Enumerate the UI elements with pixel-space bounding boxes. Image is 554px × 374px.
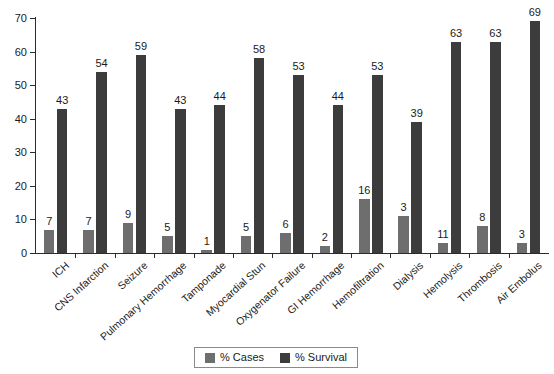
bar-value-label: 43 [170,95,191,106]
bar-cases [201,250,212,253]
y-tick-mark [30,186,35,187]
bar-survival [96,72,107,253]
bar-value-label: 53 [367,61,388,72]
category-label-text: Oxygenator Failure [233,259,307,328]
bar-cases [320,246,331,253]
bar-value-label: 59 [131,41,152,52]
bar-survival [490,42,501,254]
category-label-text: ICH [49,259,70,280]
bar-cases [83,230,94,254]
bar-cases [398,216,409,253]
bar-cases [359,199,370,253]
y-tick-mark [30,85,35,86]
x-tick-mark [430,253,431,258]
y-tick-mark [30,18,35,19]
legend-swatch-survival [280,353,290,363]
y-tick-label: 30 [0,147,27,158]
legend-item-cases: % Cases [205,352,264,363]
y-tick-mark [30,119,35,120]
x-tick-mark [469,253,470,258]
x-tick-mark [509,253,510,258]
bar-survival [411,122,422,253]
legend-swatch-cases [205,353,215,363]
y-tick-label: 50 [0,80,27,91]
y-tick-mark [30,253,35,254]
x-axis-line [35,253,549,254]
y-tick-mark [30,152,35,153]
bar-survival [254,58,265,253]
y-tick-label: 40 [0,114,27,125]
bar-value-label: 54 [91,58,112,69]
bar-survival [333,105,344,253]
y-tick-label: 0 [0,248,27,259]
x-tick-mark [75,253,76,258]
bar-survival [175,109,186,253]
bar-survival [372,75,383,253]
bar-cases [438,243,449,253]
bar-cases [44,230,55,254]
x-tick-mark [194,253,195,258]
category-label-text: Seizure [115,259,149,292]
bar-cases [517,243,528,253]
bar-value-label: 44 [328,91,349,102]
bar-value-label: 39 [406,108,427,119]
x-tick-mark [154,253,155,258]
bar-survival [293,75,304,253]
x-tick-mark [351,253,352,258]
bar-survival [451,42,462,254]
bar-chart: 010203040506070 743754959543144558653244… [0,0,554,374]
bar-cases [241,236,252,253]
y-tick-label: 20 [0,181,27,192]
category-label-text: Dialysis [390,259,425,292]
y-tick-label: 70 [0,13,27,24]
x-tick-mark [390,253,391,258]
x-tick-mark [115,253,116,258]
bar-cases [477,226,488,253]
x-tick-mark [272,253,273,258]
bar-cases [123,223,134,253]
bar-cases [162,236,173,253]
plot-area: 7437549595431445586532441653339116386336… [36,18,548,253]
legend-item-survival: % Survival [280,352,347,363]
y-tick-label: 60 [0,47,27,58]
y-tick-mark [30,219,35,220]
bar-value-label: 44 [209,91,230,102]
bar-value-label: 53 [288,61,309,72]
bar-survival [530,21,541,253]
bar-value-label: 43 [52,95,73,106]
bar-value-label: 58 [249,44,270,55]
chart-legend: % Cases % Survival [194,347,358,368]
bar-cases [280,233,291,253]
bar-survival [57,109,68,253]
y-tick-mark [30,52,35,53]
bar-survival [136,55,147,253]
bar-survival [214,105,225,253]
legend-label-survival: % Survival [295,352,347,363]
bar-value-label: 63 [446,28,467,39]
y-tick-label: 10 [0,214,27,225]
x-tick-mark [312,253,313,258]
bar-value-label: 69 [525,7,546,18]
bar-value-label: 63 [485,28,506,39]
legend-label-cases: % Cases [220,352,264,363]
x-tick-mark [233,253,234,258]
